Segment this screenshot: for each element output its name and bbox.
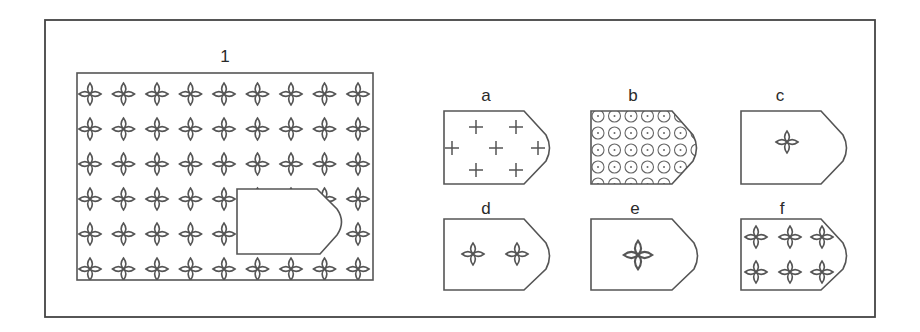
option-b-label: b	[628, 86, 637, 105]
main-figure-label: 1	[220, 47, 229, 66]
option-c[interactable]: c	[741, 86, 847, 184]
option-c-label: c	[776, 86, 785, 105]
missing-piece-slot	[237, 189, 342, 254]
option-a[interactable]: a	[444, 86, 550, 184]
puzzle-figure: 1 a b c d e f	[0, 0, 920, 332]
option-e[interactable]: e	[591, 199, 698, 290]
option-f[interactable]: f	[741, 199, 847, 290]
option-d-label: d	[481, 199, 490, 218]
option-d[interactable]: d	[444, 199, 550, 290]
option-a-label: a	[481, 86, 491, 105]
option-e-label: e	[630, 199, 639, 218]
option-b[interactable]: b	[591, 86, 720, 190]
main-pattern-panel	[77, 73, 373, 280]
option-f-label: f	[780, 199, 785, 218]
